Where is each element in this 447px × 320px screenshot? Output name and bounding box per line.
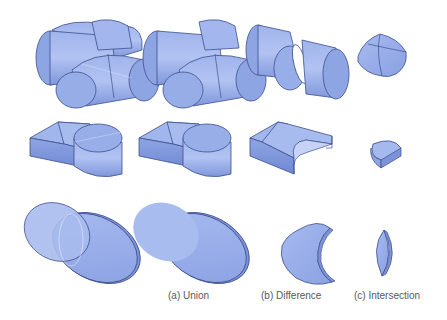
caption-difference: (b) Difference [261,290,321,301]
boolean-operations-figure [0,0,447,320]
row3-union [123,191,262,298]
row2-intersection [371,141,401,168]
caption-intersection: (c) Intersection [354,290,420,301]
row3-intersection [376,230,392,276]
row3-difference [281,223,335,284]
row1-intersection [358,34,406,77]
row2-difference [250,122,332,174]
caption-union: (a) Union [168,290,209,301]
row2-operands [30,122,122,177]
row2-union [139,122,231,177]
row1-union [143,20,266,108]
row1-operands [36,20,159,108]
row3-operands [14,191,153,298]
